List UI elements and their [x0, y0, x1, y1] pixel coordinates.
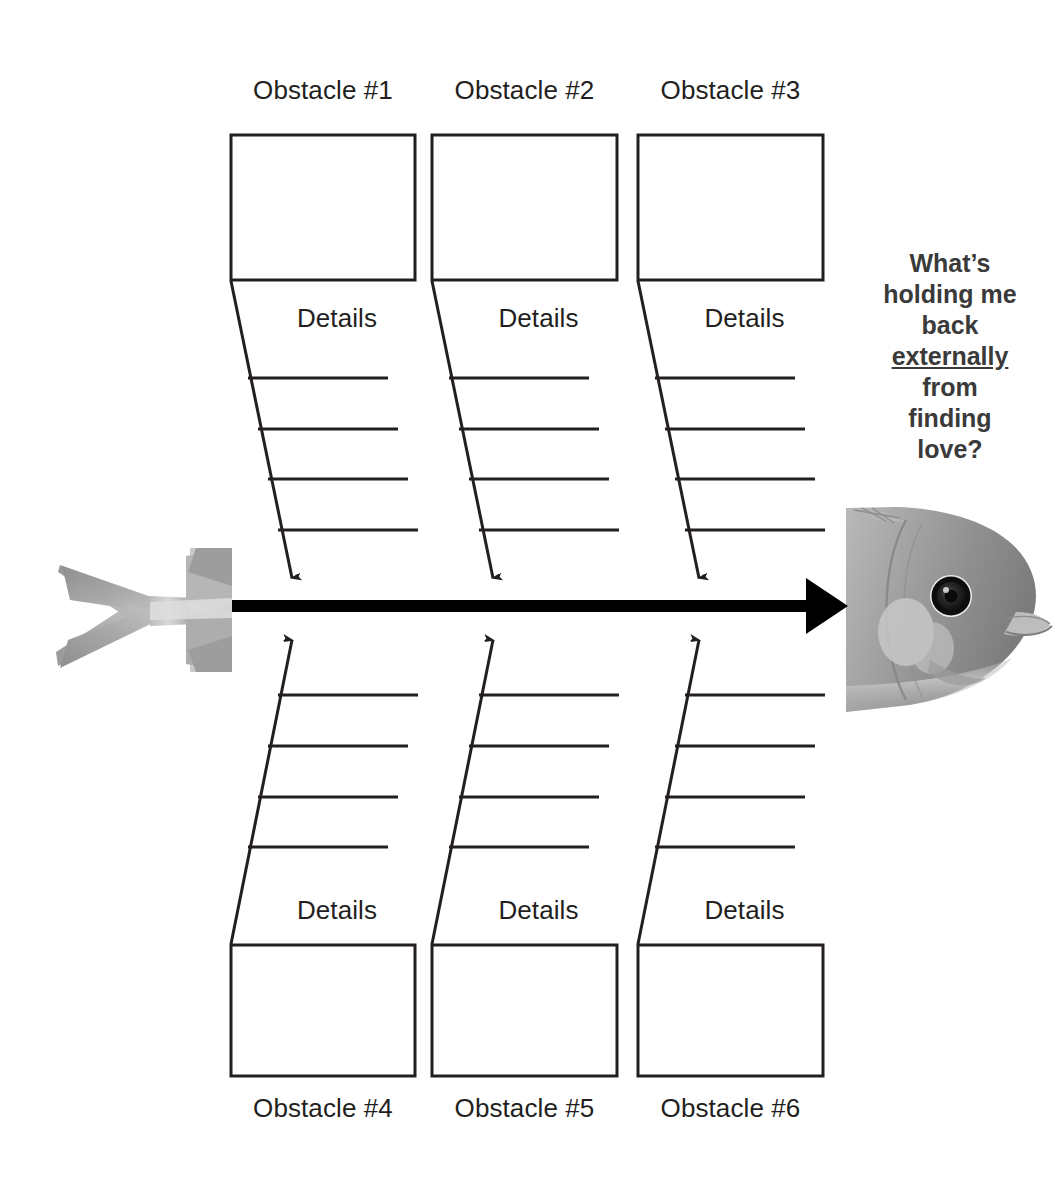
head-question-line-1: What’s: [852, 248, 1048, 279]
details-label-3: Details: [652, 303, 837, 334]
head-question-line-7: love?: [852, 434, 1048, 465]
bone-top-3: [638, 135, 825, 578]
bone-top-1: [231, 135, 418, 578]
head-question-line-3: back: [852, 310, 1048, 341]
details-label-5: Details: [446, 895, 631, 926]
bone-bottom-4: [231, 640, 418, 1076]
head-question-line-6: finding: [852, 403, 1048, 434]
head-question-emphasis: externally: [852, 341, 1048, 372]
obstacle-label-4: Obstacle #4: [231, 1093, 415, 1124]
head-question-line-2: holding me: [852, 279, 1048, 310]
obstacle-label-6: Obstacle #6: [638, 1093, 823, 1124]
fish-head-icon: [846, 507, 1052, 712]
obstacle-label-3: Obstacle #3: [638, 75, 823, 106]
details-label-2: Details: [446, 303, 631, 334]
bone-top-2: [432, 135, 619, 578]
fishbone-graphics: [0, 0, 1055, 1180]
details-label-1: Details: [245, 303, 429, 334]
obstacle-label-1: Obstacle #1: [231, 75, 415, 106]
obstacle-label-2: Obstacle #2: [432, 75, 617, 106]
head-question-line-5: from: [852, 372, 1048, 403]
fish-tail-icon: [56, 548, 232, 672]
details-label-6: Details: [652, 895, 837, 926]
obstacle-label-5: Obstacle #5: [432, 1093, 617, 1124]
bone-bottom-5: [432, 640, 619, 1076]
details-label-4: Details: [245, 895, 429, 926]
fishbone-diagram-canvas: Obstacle #1 Obstacle #2 Obstacle #3 Deta…: [0, 0, 1055, 1180]
bone-bottom-6: [638, 640, 825, 1076]
spine-arrow-icon: [232, 578, 848, 634]
head-question-text: What’s holding me back externally from f…: [852, 248, 1048, 465]
